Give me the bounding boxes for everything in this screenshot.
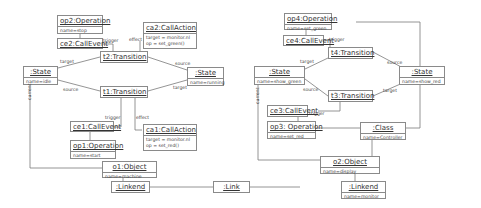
node-attr: name=monitor bbox=[342, 192, 385, 201]
edge-label-target: target bbox=[173, 85, 187, 91]
node-title: op4:Operation bbox=[285, 14, 331, 24]
ce4-callevent-node[interactable]: ce4:CallEvent bbox=[283, 35, 324, 46]
node-title: :State bbox=[400, 67, 444, 77]
linkend-left-node[interactable]: :Linkend bbox=[111, 181, 150, 193]
edge-label-target: target bbox=[300, 59, 314, 65]
t4-transition-node[interactable]: t4:Transition bbox=[328, 47, 373, 59]
node-attr: name=set_red bbox=[268, 132, 315, 141]
node-title: :State bbox=[255, 67, 304, 77]
node-attr: name=start bbox=[71, 151, 115, 160]
ca1-callaction-node[interactable]: ca1:CallAction target = monitor.nl op = … bbox=[143, 124, 197, 151]
node-attr: name=set_green bbox=[285, 24, 331, 33]
node-attr: name=display bbox=[321, 167, 379, 176]
node-title: t1:Transition bbox=[101, 87, 147, 97]
class-controller-node[interactable]: :Class name=Controller bbox=[360, 122, 406, 140]
node-title: t3:Transition bbox=[329, 91, 372, 101]
node-attr: name=show_red bbox=[400, 77, 444, 86]
t2-transition-node[interactable]: t2:Transition bbox=[100, 51, 148, 63]
node-attr: name=running bbox=[188, 78, 223, 87]
state-running-node[interactable]: :State name=running bbox=[187, 67, 224, 86]
node-attrs: target = monitor.nl op = set_green() bbox=[144, 33, 196, 48]
node-title: o1:Object bbox=[103, 162, 156, 172]
attr-line: op = set_red() bbox=[146, 143, 194, 149]
edge-label-current: current bbox=[27, 83, 32, 100]
node-attr: name=machine bbox=[103, 172, 156, 181]
edge-label-current: current bbox=[255, 87, 260, 104]
edge-label-target: target bbox=[383, 88, 397, 94]
linkend-right-node[interactable]: :Linkend name=monitor bbox=[341, 181, 386, 199]
link-node[interactable]: :Link bbox=[213, 181, 250, 193]
state-show-green-node[interactable]: :State name=show_green bbox=[254, 66, 305, 85]
attr-line: op = set_green() bbox=[146, 41, 194, 47]
node-title: ca2:CallAction bbox=[144, 23, 196, 33]
edge-label-trigger: trigger bbox=[105, 115, 121, 121]
t1-transition-node[interactable]: t1:Transition bbox=[100, 86, 148, 98]
node-attr: name=show_green bbox=[255, 77, 304, 86]
o2-object-node[interactable]: o2:Object name=display bbox=[320, 156, 380, 174]
edge-label-source: source bbox=[175, 61, 190, 67]
node-title: :Linkend bbox=[342, 182, 385, 192]
node-title: :State bbox=[24, 67, 57, 77]
ce1-callevent-node[interactable]: ce1:CallEvent bbox=[70, 121, 114, 132]
node-title: op2:Operation bbox=[58, 16, 102, 26]
op2-operation-node[interactable]: op2:Operation name=stop bbox=[57, 15, 103, 34]
node-title: :Link bbox=[214, 182, 249, 192]
node-title: ce2:CallEvent bbox=[58, 39, 102, 49]
edge-label-trigger: trigger bbox=[103, 38, 119, 44]
node-title: t4:Transition bbox=[329, 48, 372, 58]
node-attr: name=stop bbox=[58, 26, 102, 35]
op4-operation-node[interactable]: op4:Operation name=set_green bbox=[284, 13, 332, 30]
node-title: :Class bbox=[361, 123, 405, 133]
op1-operation-node[interactable]: op1:Operation name=start bbox=[70, 140, 116, 159]
edge-label-effect: effect bbox=[129, 37, 142, 43]
ca2-callaction-node[interactable]: ca2:CallAction target = monitor.nl op = … bbox=[143, 22, 197, 49]
edge-label-source: source bbox=[63, 87, 78, 93]
edge-label-source: source bbox=[387, 60, 402, 66]
node-title: ce3:CallEvent bbox=[268, 106, 307, 116]
node-attrs: target = monitor.nl op = set_red() bbox=[144, 135, 196, 150]
op3-operation-node[interactable]: op3: Operation name=set_red bbox=[267, 121, 316, 139]
node-title: op3: Operation bbox=[268, 122, 315, 132]
node-title: op1:Operation bbox=[71, 141, 115, 151]
o1-object-node[interactable]: o1:Object name=machine bbox=[102, 161, 157, 178]
edge-label-source: source bbox=[303, 87, 318, 93]
node-attr: name=Controller bbox=[361, 133, 405, 142]
node-title: ce1:CallEvent bbox=[71, 122, 113, 132]
edge-label-target: target bbox=[60, 59, 74, 65]
t3-transition-node[interactable]: t3:Transition bbox=[328, 90, 373, 102]
ce3-callevent-node[interactable]: ce3:CallEvent bbox=[267, 105, 308, 117]
edge-label-trigger: trigger bbox=[309, 111, 325, 117]
node-title: ce4:CallEvent bbox=[284, 36, 323, 46]
node-title: ca1:CallAction bbox=[144, 125, 196, 135]
state-show-red-node[interactable]: :State name=show_red bbox=[399, 66, 445, 85]
node-title: :Linkend bbox=[112, 182, 149, 192]
ce2-callevent-node[interactable]: ce2:CallEvent bbox=[57, 38, 103, 49]
node-title: t2:Transition bbox=[101, 52, 147, 62]
edge-label-effect: effect bbox=[136, 115, 149, 121]
node-title: :State bbox=[188, 68, 223, 78]
node-title: o2:Object bbox=[321, 157, 379, 167]
edge-label-trigger: trigger bbox=[329, 37, 345, 43]
